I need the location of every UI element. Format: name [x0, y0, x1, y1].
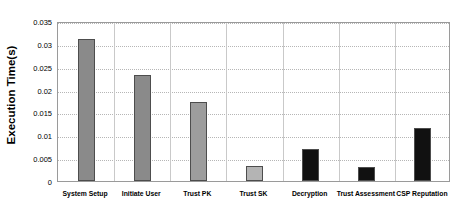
- bar-chart: Execution Time(s) 00.0050.010.0150.020.0…: [0, 0, 457, 220]
- x-axis-tick-labels: System SetupInitiate UserTrust PKTrust S…: [57, 190, 450, 204]
- bar: [358, 167, 375, 181]
- y-tick-label: 0.035: [33, 18, 52, 27]
- bar: [414, 128, 431, 181]
- bar: [190, 102, 207, 181]
- x-tick-label: Trust Assessment: [337, 190, 395, 197]
- bar: [78, 39, 95, 181]
- x-tick-label: Initiate User: [122, 190, 161, 197]
- x-tick-label: Trust SK: [240, 190, 268, 197]
- y-tick-label: 0.02: [37, 86, 52, 95]
- bar: [134, 75, 151, 182]
- y-tick-label: 0.015: [33, 109, 52, 118]
- y-tick-label: 0: [48, 178, 52, 187]
- x-tick-label: System Setup: [63, 190, 108, 197]
- y-axis-title: Execution Time(s): [0, 0, 22, 190]
- bar: [246, 166, 263, 181]
- y-axis-tick-labels: 00.0050.010.0150.020.0250.030.035: [22, 22, 56, 182]
- y-tick-label: 0.01: [37, 132, 52, 141]
- bars-layer: [58, 23, 449, 181]
- x-tick-label: Decryption: [292, 190, 328, 197]
- plot-area: [57, 22, 450, 182]
- y-axis-title-text: Execution Time(s): [5, 46, 17, 145]
- y-tick-label: 0.005: [33, 155, 52, 164]
- x-tick-label: Trust PK: [183, 190, 211, 197]
- x-tick-label: CSP Reputation: [396, 190, 447, 197]
- y-tick-label: 0.03: [37, 40, 52, 49]
- bar: [302, 149, 319, 181]
- y-tick-label: 0.025: [33, 63, 52, 72]
